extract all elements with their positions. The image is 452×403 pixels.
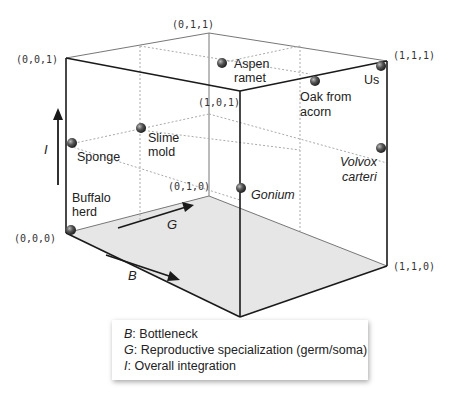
vertex-110: (1,1,0) — [393, 261, 435, 272]
legend-item-b: B: Bottleneck — [124, 326, 368, 342]
legend: B: Bottleneck G: Reproductive specializa… — [112, 320, 368, 380]
vertex-010: (0,1,0) — [168, 181, 210, 192]
axis-i-label: I — [44, 142, 48, 157]
label-gonium: Gonium — [251, 188, 295, 202]
axis-g-label: G — [167, 217, 177, 232]
label-volvox: Volvoxcarteri — [340, 155, 378, 184]
label-slime: Slimemold — [148, 131, 179, 159]
vertex-101: (1,0,1) — [198, 97, 240, 108]
label-oak: Oak fromacorn — [300, 90, 351, 119]
point-oak — [310, 76, 320, 86]
label-buffalo: Buffaloherd — [72, 191, 111, 219]
vertex-001: (0,0,1) — [16, 54, 58, 65]
point-volvox — [376, 143, 386, 153]
legend-item-g: G: Reproductive specialization (germ/som… — [124, 342, 368, 358]
point-sponge — [67, 138, 77, 148]
vertex-111: (1,1,1) — [393, 50, 435, 61]
point-slime — [136, 123, 146, 133]
vertex-000: (0,0,0) — [14, 233, 56, 244]
point-us — [376, 61, 386, 71]
axis-b-label: B — [128, 268, 137, 283]
organism-labels: Aspenramet Oak fromacorn Us Slimemold Sp… — [72, 57, 379, 219]
legend-item-i: I: Overall integration — [124, 358, 368, 374]
label-sponge: Sponge — [77, 150, 120, 164]
point-gonium — [236, 183, 246, 193]
label-aspen: Aspenramet — [234, 57, 269, 85]
point-aspen — [217, 58, 227, 68]
point-buffalo — [66, 225, 76, 235]
vertex-011: (0,1,1) — [172, 19, 214, 30]
label-us: Us — [364, 73, 379, 87]
